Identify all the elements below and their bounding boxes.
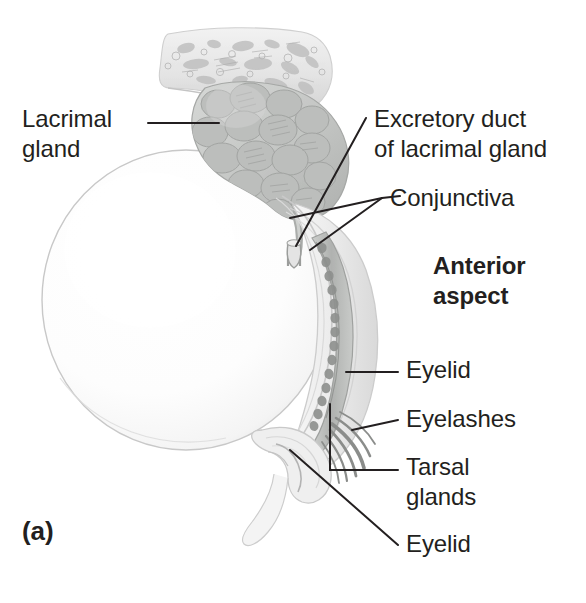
lower-eyelid xyxy=(242,427,331,545)
label-eyelashes: Eyelashes xyxy=(406,404,586,434)
label-excretory-duct: Excretory duct of lacrimal gland xyxy=(374,104,586,164)
label-anterior-aspect: Anterior aspect xyxy=(433,251,586,311)
label-eyelid-lower: Eyelid xyxy=(406,529,586,559)
excretory-duct xyxy=(287,240,301,268)
panel-letter: (a) xyxy=(22,516,112,546)
label-eyelid-upper: Eyelid xyxy=(406,355,586,385)
eye-accessory-structures-figure: Lacrimal gland Excretory duct of lacrima… xyxy=(0,0,586,603)
label-tarsal-glands: Tarsal glands xyxy=(406,452,586,512)
label-conjunctiva: Conjunctiva xyxy=(390,183,586,213)
label-lacrimal-gland: Lacrimal gland xyxy=(22,104,192,164)
